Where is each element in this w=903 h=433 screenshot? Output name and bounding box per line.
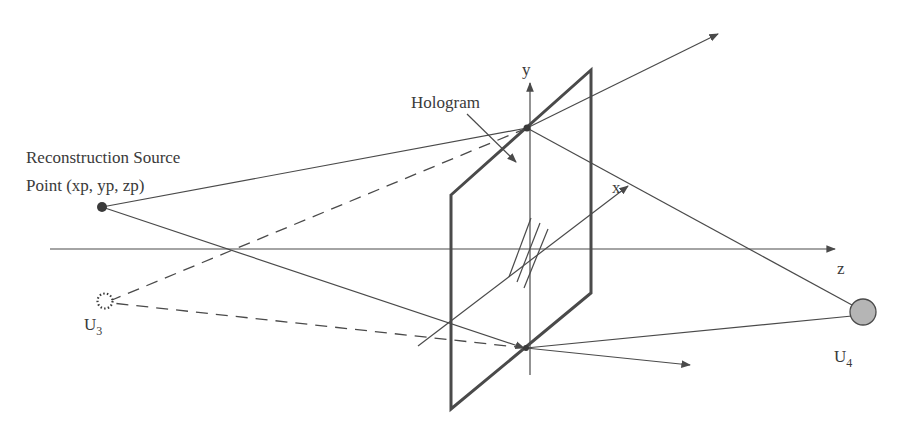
u3-label-main: U — [84, 315, 96, 334]
hologram-label: Hologram — [411, 93, 480, 112]
hologram-reconstruction-diagram: Reconstruction Source Point (xp, yp, zp)… — [0, 0, 903, 433]
ray-top-outgoing — [527, 34, 718, 128]
u4-label: U4 — [834, 347, 852, 370]
u3-virtual-image-icon — [98, 294, 113, 309]
u4-label-sub: 4 — [846, 356, 852, 370]
u3-label: U3 — [84, 315, 102, 338]
hologram-point-bottom — [523, 345, 529, 351]
fringe-marks — [509, 218, 548, 288]
source-label-line2: Point (xp, yp, zp) — [26, 176, 145, 195]
ray-bottom-outgoing — [526, 348, 690, 365]
virtual-ray-bottom — [112, 303, 526, 348]
z-axis-label: z — [837, 259, 845, 278]
ray-top-to-u4 — [527, 128, 852, 305]
u3-label-sub: 3 — [96, 324, 102, 338]
u4-label-main: U — [834, 347, 846, 366]
hologram-point-top — [524, 125, 531, 132]
hologram-plate — [451, 70, 591, 409]
ray-bottom-to-u4 — [526, 316, 852, 348]
source-point — [97, 202, 107, 212]
x-axis-label: x — [612, 178, 621, 197]
y-axis-label: y — [522, 60, 531, 79]
ray-source-to-top — [102, 128, 527, 207]
u4-real-image-icon — [850, 299, 876, 325]
source-label-line1: Reconstruction Source — [26, 148, 180, 167]
